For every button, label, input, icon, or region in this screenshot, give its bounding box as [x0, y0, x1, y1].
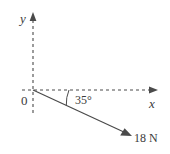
- diagram-canvas: y x 0 35° 18 N: [0, 0, 170, 154]
- x-axis-arrowhead: [149, 87, 158, 94]
- force-vector-diagram: y x 0 35° 18 N: [0, 0, 170, 154]
- angle-arc: [66, 90, 69, 105]
- force-magnitude-label: 18 N: [134, 131, 158, 145]
- x-axis-label: x: [148, 96, 155, 111]
- origin-label: 0: [21, 93, 28, 108]
- force-vector-arrowhead: [120, 128, 132, 136]
- y-axis-label: y: [18, 11, 26, 26]
- y-axis-arrowhead: [30, 12, 37, 21]
- angle-label: 35°: [75, 93, 92, 107]
